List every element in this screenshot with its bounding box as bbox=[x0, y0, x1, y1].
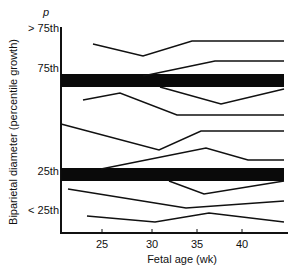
growth-line-8 bbox=[68, 189, 284, 208]
y-label-below-25th: < 25th bbox=[28, 204, 59, 216]
growth-lines bbox=[61, 41, 284, 222]
growth-line-2 bbox=[143, 61, 284, 76]
y-label-25th: 25th bbox=[38, 165, 59, 177]
band-75th bbox=[61, 74, 284, 87]
y-label-above-75th: > 75th bbox=[28, 22, 59, 34]
growth-line-6 bbox=[101, 148, 284, 169]
growth-line-3 bbox=[160, 87, 284, 104]
x-tick-label-40: 40 bbox=[236, 238, 248, 250]
y-label-75th: 75th bbox=[38, 62, 59, 74]
x-tick-label-25: 25 bbox=[96, 238, 108, 250]
growth-line-5 bbox=[61, 124, 284, 150]
growth-line-7 bbox=[169, 181, 284, 194]
x-tick-label-35: 35 bbox=[191, 238, 203, 250]
growth-line-1 bbox=[93, 41, 284, 56]
percentile-growth-chart: 25 30 35 40 Fetal age (wk) p > 75th 75th… bbox=[0, 0, 297, 272]
band-25th bbox=[61, 168, 284, 181]
growth-line-9 bbox=[87, 213, 284, 222]
x-axis-title: Fetal age (wk) bbox=[147, 253, 217, 265]
y-axis-symbol: p bbox=[42, 6, 49, 18]
y-axis-title: Biparietal diameter (percentile growth) bbox=[7, 39, 19, 225]
x-tick-label-30: 30 bbox=[146, 238, 158, 250]
